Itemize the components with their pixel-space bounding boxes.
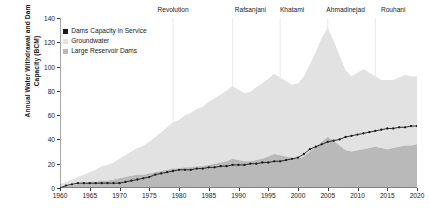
line-marker-dot (225, 165, 227, 167)
line-marker-dot (392, 127, 394, 129)
line-marker-dot (172, 170, 174, 172)
line-marker-dot (118, 182, 120, 184)
line-marker-dot (178, 169, 180, 171)
y-axis-tick-mark (57, 67, 60, 68)
y-axis-tick-label: 60 (15, 112, 55, 119)
era-annotation-label: Rouhani (381, 6, 406, 14)
line-marker-dot (208, 166, 210, 168)
x-axis-tick-mark (60, 188, 61, 191)
line-marker-dot (202, 167, 204, 169)
era-annotation-label: Rafsanjani (235, 6, 266, 14)
x-axis-tick-mark (417, 188, 418, 191)
legend-item: Dams Capacity in Service (63, 27, 147, 36)
line-marker-dot (350, 135, 352, 137)
line-marker-dot (142, 177, 144, 179)
line-marker-dot (291, 158, 293, 160)
legend-item: Groundwater (63, 37, 147, 46)
y-axis-tick-mark (57, 115, 60, 116)
x-axis-tick-label: 2005 (313, 192, 343, 199)
line-marker-dot (404, 126, 406, 128)
line-marker-dot (321, 143, 323, 145)
x-axis-tick-mark (149, 188, 150, 191)
era-annotation-label: Ahmadinejad (326, 6, 365, 14)
line-marker-dot (309, 148, 311, 150)
line-marker-dot (154, 173, 156, 175)
x-axis-tick-mark (179, 188, 180, 191)
x-axis-tick-mark (120, 188, 121, 191)
y-axis-tick-label: 80 (15, 87, 55, 94)
line-marker-dot (261, 161, 263, 163)
line-marker-dot (356, 133, 358, 135)
line-marker-dot (130, 180, 132, 182)
line-marker-dot (190, 169, 192, 171)
line-marker-dot (106, 182, 108, 184)
line-marker-dot (95, 182, 97, 184)
legend-swatch-icon (63, 49, 68, 54)
x-axis-tick-mark (90, 188, 91, 191)
line-marker-dot (166, 171, 168, 173)
y-axis-tick-mark (57, 139, 60, 140)
line-marker-dot (89, 182, 91, 184)
y-axis-tick-label: 140 (15, 15, 55, 22)
line-marker-dot (285, 159, 287, 161)
line-marker-dot (398, 126, 400, 128)
legend-swatch-icon (63, 39, 68, 44)
line-marker-dot (77, 182, 79, 184)
line-marker-dot (184, 169, 186, 171)
line-marker-dot (368, 131, 370, 133)
line-marker-dot (267, 161, 269, 163)
x-axis-tick-mark (298, 188, 299, 191)
line-marker-dot (255, 163, 257, 165)
x-axis-tick-label: 2020 (402, 192, 429, 199)
y-axis-tick-label: 0 (15, 185, 55, 192)
y-axis-tick-label: 20 (15, 160, 55, 167)
x-axis-tick-label: 1970 (105, 192, 135, 199)
line-marker-dot (386, 127, 388, 129)
x-axis-tick-label: 1975 (134, 192, 164, 199)
y-axis-tick-label: 40 (15, 136, 55, 143)
line-marker-dot (71, 183, 73, 185)
line-marker-dot (279, 160, 281, 162)
x-axis-tick-label: 1980 (164, 192, 194, 199)
era-annotation-label: Khatami (280, 6, 304, 14)
line-marker-dot (136, 178, 138, 180)
legend-item-label: Groundwater (71, 37, 109, 45)
line-marker-dot (65, 184, 67, 186)
chart-legend: Dams Capacity in ServiceGroundwaterLarge… (63, 27, 147, 57)
x-axis-tick-mark (268, 188, 269, 191)
line-marker-dot (214, 166, 216, 168)
line-marker-dot (362, 132, 364, 134)
x-axis-tick-label: 2000 (283, 192, 313, 199)
line-marker-dot (315, 146, 317, 148)
y-axis-tick-mark (57, 42, 60, 43)
line-marker-dot (231, 164, 233, 166)
x-axis-tick-mark (328, 188, 329, 191)
line-marker-dot (101, 182, 103, 184)
legend-swatch-icon (63, 29, 68, 34)
x-axis-tick-label: 1990 (224, 192, 254, 199)
x-axis-tick-mark (209, 188, 210, 191)
line-marker-dot (344, 136, 346, 138)
y-axis-tick-mark (57, 91, 60, 92)
legend-item: Large Reservoir Dams (63, 47, 147, 56)
y-axis-tick-mark (57, 18, 60, 19)
line-marker-dot (243, 164, 245, 166)
line-marker-dot (380, 129, 382, 131)
line-marker-dot (124, 181, 126, 183)
line-marker-dot (339, 138, 341, 140)
line-marker-dot (410, 125, 412, 127)
line-marker-dot (333, 139, 335, 141)
line-marker-dot (249, 163, 251, 165)
line-marker-dot (148, 176, 150, 178)
line-marker-dot (160, 172, 162, 174)
x-axis-tick-label: 2010 (343, 192, 373, 199)
x-axis-tick-label: 2015 (372, 192, 402, 199)
y-axis-tick-mark (57, 164, 60, 165)
line-marker-dot (112, 182, 114, 184)
x-axis-tick-mark (239, 188, 240, 191)
x-axis-tick-label: 1985 (194, 192, 224, 199)
line-marker-dot (374, 130, 376, 132)
legend-item-label: Dams Capacity in Service (71, 27, 147, 35)
line-marker-dot (237, 164, 239, 166)
line-marker-dot (220, 165, 222, 167)
